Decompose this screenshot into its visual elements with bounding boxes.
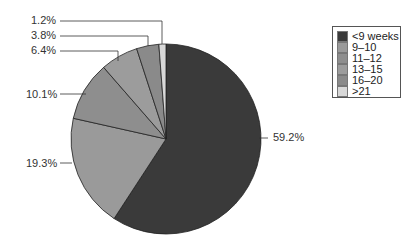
leader-line xyxy=(60,21,162,44)
legend-swatch xyxy=(337,75,348,86)
legend-swatch xyxy=(337,53,348,64)
legend-swatch xyxy=(337,42,348,53)
label-3-8: 3.8% xyxy=(31,29,56,41)
legend-swatch xyxy=(337,64,348,75)
label-6-4: 6.4% xyxy=(31,44,56,56)
legend-item: >21 xyxy=(337,85,371,97)
legend-swatch xyxy=(337,86,348,97)
legend-swatch xyxy=(337,31,348,42)
label-19-3: 19.3% xyxy=(26,157,57,169)
label-10-1: 10.1% xyxy=(26,88,57,100)
label-59-2: 59.2% xyxy=(273,131,304,143)
label-1-2: 1.2% xyxy=(31,14,56,26)
leader-line xyxy=(60,51,118,61)
legend: <9 weeks 9–10 11–12 13–15 16–20 >21 xyxy=(332,26,401,98)
leader-line xyxy=(60,36,148,46)
